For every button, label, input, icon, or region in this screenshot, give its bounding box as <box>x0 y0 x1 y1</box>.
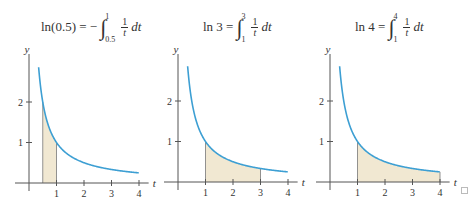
x-tick-label: 4 <box>438 187 443 198</box>
x-tick-label: 3 <box>109 188 114 199</box>
curve-1-over-t <box>340 66 440 172</box>
x-tick-label: 3 <box>258 187 263 198</box>
y-tick-label: 2 <box>319 96 324 107</box>
x-tick-label: 1 <box>54 188 59 199</box>
y-tick-label: 1 <box>167 136 172 147</box>
x-axis-label: t <box>153 177 157 189</box>
x-tick-label: 2 <box>231 187 236 198</box>
x-axis-label: t <box>302 176 306 188</box>
x-tick-label: 3 <box>410 187 415 198</box>
y-axis-label: y <box>24 43 30 55</box>
x-tick-label: 1 <box>203 187 208 198</box>
x-tick-label: 2 <box>82 188 87 199</box>
x-tick-label: 1 <box>355 187 360 198</box>
y-tick-label: 1 <box>18 137 23 148</box>
end-of-proof-icon <box>461 187 468 194</box>
x-axis-label: t <box>454 176 458 188</box>
curve-1-over-t <box>188 66 288 172</box>
plot-panel-2: 123412ty <box>164 43 306 198</box>
y-tick-label: 2 <box>167 96 172 107</box>
x-tick-label: 2 <box>383 187 388 198</box>
plot-panel-1: 123412ty <box>15 43 157 199</box>
y-axis-label: y <box>173 43 179 55</box>
shaded-area <box>358 142 441 183</box>
y-tick-label: 1 <box>319 136 324 147</box>
plot-panel-3: 123412ty <box>316 43 458 198</box>
x-tick-label: 4 <box>137 188 142 199</box>
plots-canvas: 123412ty123412ty123412ty <box>0 0 472 205</box>
y-axis-label: y <box>325 43 331 55</box>
x-tick-label: 4 <box>286 187 291 198</box>
y-tick-label: 2 <box>18 97 23 108</box>
